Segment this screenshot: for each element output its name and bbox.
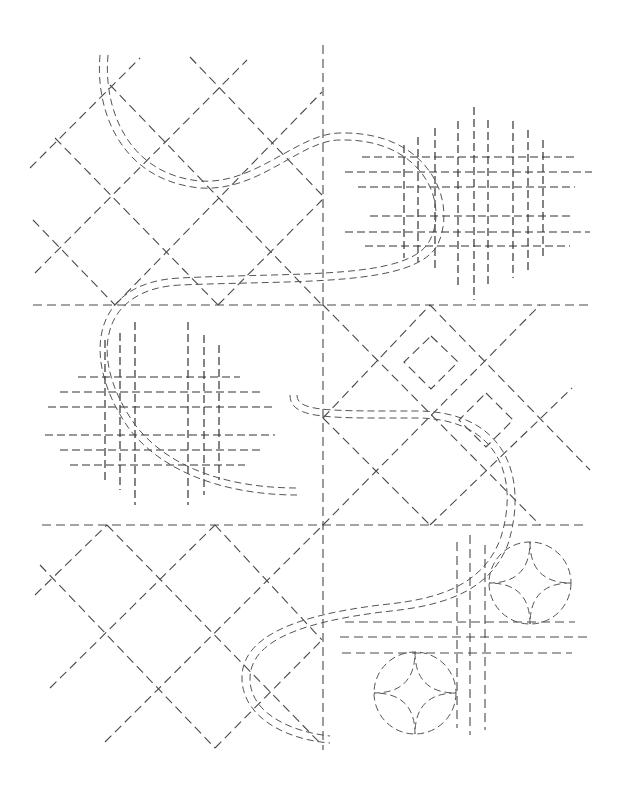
top-left-lattice: [30, 57, 322, 305]
cord-lower: [242, 395, 515, 743]
bottom-left-lattice: [35, 525, 323, 748]
middle-left-grid: [45, 322, 275, 505]
divider-lines: [33, 45, 590, 750]
cord-upper: [99, 55, 444, 495]
middle-right-lattice: [323, 305, 590, 525]
rosette-upper: [489, 542, 571, 624]
stitch-pattern-canvas: [0, 0, 629, 788]
rosette-lower: [374, 652, 456, 734]
top-right-grid: [345, 107, 592, 300]
bottom-right-crosslines: [340, 535, 590, 735]
